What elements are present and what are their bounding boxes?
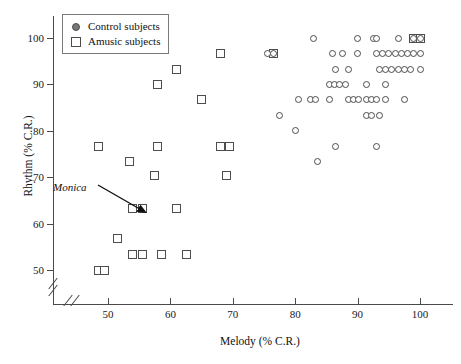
data-point-amusic	[182, 250, 191, 259]
y-tick-100	[47, 38, 53, 39]
x-tick-label-60: 60	[155, 308, 185, 320]
data-point-control	[332, 66, 339, 73]
data-point-control	[332, 143, 339, 150]
data-point-control	[373, 35, 380, 42]
circle-marker-icon	[69, 23, 83, 31]
data-point-control	[363, 81, 370, 88]
data-point-amusic	[197, 95, 206, 104]
x-tick-80	[295, 298, 296, 304]
y-axis-title: Rhythm (% C.R.)	[22, 76, 34, 236]
data-point-control	[326, 96, 333, 103]
y-tick-70	[47, 177, 53, 178]
data-point-control	[295, 96, 302, 103]
plot-area: 5060708090100 5060708090100 Rhythm (% C.…	[0, 0, 461, 364]
x-tick-label-80: 80	[280, 308, 310, 320]
data-point-control	[376, 112, 383, 119]
annotation-label-monica: Monica	[53, 181, 87, 193]
annotation-arrow-icon	[96, 182, 166, 222]
legend-label-amusic: Amusic subjects	[88, 35, 160, 48]
y-tick-60	[47, 224, 53, 225]
data-point-amusic	[153, 142, 162, 151]
legend: Control subjects Amusic subjects	[62, 14, 169, 54]
data-point-control	[342, 81, 349, 88]
data-point-amusic	[113, 234, 122, 243]
y-tick-50	[47, 270, 53, 271]
data-point-control	[401, 96, 408, 103]
data-point-control	[270, 50, 277, 57]
x-tick-100	[420, 298, 421, 304]
data-point-amusic	[172, 204, 181, 213]
data-point-amusic	[150, 171, 159, 180]
x-axis-line	[53, 304, 453, 305]
x-tick-label-70: 70	[218, 308, 248, 320]
data-point-control	[339, 50, 346, 57]
data-point-control	[373, 143, 380, 150]
x-tick-label-100: 100	[405, 308, 435, 320]
data-point-control	[345, 66, 352, 73]
data-point-amusic	[94, 142, 103, 151]
data-point-control	[417, 66, 424, 73]
data-point-control	[292, 127, 299, 134]
data-point-control	[417, 50, 424, 57]
data-point-control	[407, 66, 414, 73]
data-point-amusic	[216, 142, 225, 151]
x-tick-90	[358, 298, 359, 304]
x-axis-title: Melody (% C.R.)	[120, 335, 400, 347]
data-point-amusic	[157, 250, 166, 259]
y-tick-label-100: 100	[12, 33, 44, 44]
data-point-amusic	[128, 250, 137, 259]
x-tick-60	[170, 298, 171, 304]
data-point-control	[310, 35, 317, 42]
data-point-amusic	[172, 65, 181, 74]
data-point-control	[329, 50, 336, 57]
data-point-amusic	[216, 49, 225, 58]
scatter-plot-figure: 5060708090100 5060708090100 Rhythm (% C.…	[0, 0, 461, 364]
data-point-control	[314, 158, 321, 165]
legend-item-control: Control subjects	[69, 19, 160, 34]
y-tick-label-50: 50	[12, 265, 44, 276]
data-point-amusic	[225, 142, 234, 151]
data-point-control	[354, 35, 361, 42]
y-tick-90	[47, 84, 53, 85]
data-point-control	[382, 81, 389, 88]
data-point-control	[417, 35, 424, 42]
data-point-control	[368, 112, 375, 119]
data-point-amusic	[222, 171, 231, 180]
square-marker-icon	[69, 37, 83, 47]
data-point-amusic	[138, 250, 147, 259]
data-point-amusic	[153, 80, 162, 89]
y-tick-80	[47, 131, 53, 132]
data-point-amusic	[125, 157, 134, 166]
data-point-control	[395, 35, 402, 42]
data-point-control	[276, 112, 283, 119]
x-tick-50	[108, 298, 109, 304]
data-point-control	[354, 50, 361, 57]
legend-label-control: Control subjects	[88, 20, 160, 33]
data-point-control	[382, 96, 389, 103]
x-tick-label-50: 50	[93, 308, 123, 320]
legend-item-amusic: Amusic subjects	[69, 34, 160, 49]
x-tick-label-90: 90	[343, 308, 373, 320]
y-axis-line	[53, 16, 54, 304]
data-point-control	[312, 96, 319, 103]
data-point-amusic	[100, 266, 109, 275]
x-tick-70	[233, 298, 234, 304]
data-point-control	[355, 96, 362, 103]
data-point-control	[373, 96, 380, 103]
